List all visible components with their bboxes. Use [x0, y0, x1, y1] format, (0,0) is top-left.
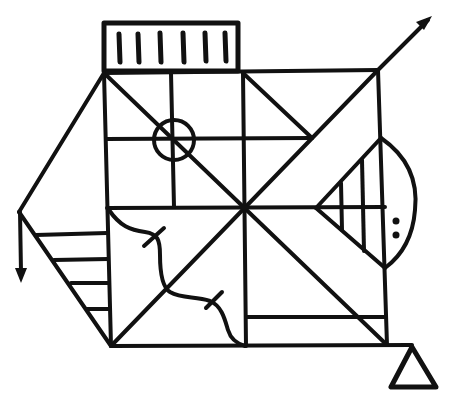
top-hatched-box [104, 23, 238, 71]
hatch-line [341, 183, 342, 230]
hatch-bar [205, 33, 206, 61]
hatch-bar [138, 34, 139, 62]
arrow-up-right [378, 16, 432, 70]
rung [54, 259, 108, 260]
main-square [104, 70, 412, 346]
hatch-line [362, 160, 364, 251]
arrowhead-down-icon [15, 268, 27, 283]
hatch-bar [119, 34, 120, 62]
right-lens [316, 138, 416, 268]
hatch-bar [183, 33, 184, 62]
dot [393, 232, 400, 239]
left-triangle [19, 73, 111, 346]
dot [393, 218, 400, 225]
hatch-bar [160, 33, 161, 62]
diagram-svg [0, 0, 452, 406]
diagram-canvas [0, 0, 452, 406]
bottom-triangle [391, 347, 436, 387]
rung [36, 233, 107, 235]
hatch-bar [225, 33, 226, 61]
